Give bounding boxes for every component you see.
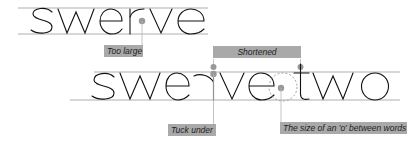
top-word-swerve <box>31 8 204 34</box>
lettering-diagram <box>0 0 414 142</box>
shortened-dot-left <box>211 64 217 70</box>
shortened-label: Shortened <box>213 46 301 58</box>
bottom-word-swerve <box>92 73 274 100</box>
too-large-label: Too large <box>104 45 143 57</box>
bottom-word-two <box>294 64 389 100</box>
tuck-under-label: Tuck under <box>168 124 216 136</box>
o-spacing-label: The size of an 'o' between words <box>280 122 407 134</box>
